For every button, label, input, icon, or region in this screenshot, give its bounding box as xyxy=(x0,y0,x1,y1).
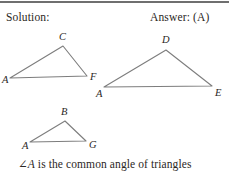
solution-panel: Solution: Answer: (A) ACFADEABG ∠A is th… xyxy=(0,0,229,176)
angle-vertex-letter: A xyxy=(28,158,35,170)
geometry-figure: ACFADEABG xyxy=(0,26,229,148)
caption-remainder: is the common angle of triangles xyxy=(35,158,192,170)
triangle-ADE-outline xyxy=(104,50,212,87)
vertex-label-ADE-D: D xyxy=(162,34,170,45)
solution-label: Solution: xyxy=(6,11,50,24)
vertex-label-ACF-C: C xyxy=(59,31,66,42)
triangle-ACF-outline xyxy=(10,46,87,78)
triangles-svg xyxy=(0,26,229,148)
answer-label: Answer: (A) xyxy=(150,11,209,24)
vertex-label-ADE-A: A xyxy=(96,88,102,99)
triangle-ABG-outline xyxy=(30,121,86,142)
vertex-label-ADE-E: E xyxy=(215,87,221,98)
vertex-label-ACF-F: F xyxy=(90,71,96,82)
vertex-label-ABG-G: G xyxy=(89,139,97,150)
top-rule-divider xyxy=(0,1,229,3)
vertex-label-ABG-A: A xyxy=(22,140,28,151)
vertex-label-ABG-B: B xyxy=(61,106,67,117)
angle-symbol: ∠ xyxy=(18,157,28,171)
caption-text: ∠A is the common angle of triangles xyxy=(18,157,191,171)
vertex-label-ACF-A: A xyxy=(2,74,8,85)
